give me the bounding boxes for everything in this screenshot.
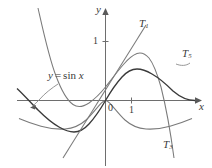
sine-equation-sin: sin: [63, 69, 76, 81]
curve-label-t1: T1: [139, 18, 149, 30]
y-tick-label-1: 1: [93, 36, 98, 46]
x-axis-label: x: [199, 101, 204, 112]
origin-label: 0: [108, 103, 113, 113]
sine-equation-y: y: [48, 69, 53, 81]
x-tick-label-1: 1: [129, 105, 134, 115]
curve-t1: [63, 25, 146, 158]
curve-label-t5-sub: 5: [188, 52, 191, 59]
y-axis-label: y: [96, 4, 101, 15]
taylor-polynomial-figure: y x 0 1 1 y=sin x T1 T5 T3: [0, 0, 212, 168]
sine-equation-equals: =: [55, 69, 61, 81]
plot-canvas: [0, 0, 212, 168]
y-axis-arrowhead: [102, 8, 108, 15]
curve-label-t3-sub: 3: [169, 143, 172, 150]
curve-label-t3: T3: [163, 139, 173, 151]
sine-equation-x: x: [79, 69, 84, 81]
t5-label-leader: [176, 63, 190, 65]
sine-equation-label: y=sin x: [48, 70, 84, 81]
curve-label-t1-sub: 1: [145, 22, 148, 29]
curve-label-t5: T5: [182, 48, 192, 60]
